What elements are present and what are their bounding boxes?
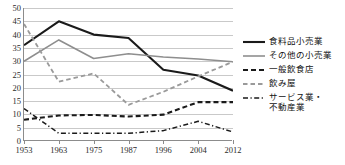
- chart-figure: 05101520253035404550 1953196319751987199…: [0, 0, 345, 165]
- legend-item[interactable]: 食料品小売業: [243, 36, 345, 48]
- x-axis-tick-label: 1953: [16, 146, 33, 155]
- x-axis-tick-label: 2012: [225, 146, 242, 155]
- solid-gray-line-icon: [243, 50, 265, 62]
- y-axis-tick-label: 30: [13, 57, 22, 66]
- x-axis-tick-mark: [233, 140, 234, 144]
- legend-item-label: 飲み屋: [269, 78, 296, 88]
- y-axis-tick-label: 20: [13, 84, 22, 93]
- y-axis-tick-label: 0: [17, 137, 21, 146]
- plot-area: 05101520253035404550 1953196319751987199…: [23, 8, 232, 141]
- dashed-black-line-icon: [243, 64, 265, 76]
- series-lines: [24, 8, 233, 141]
- x-axis-tick-label: 1987: [120, 146, 137, 155]
- legend-item-label: 食料品小売業: [269, 36, 323, 46]
- y-axis-tick-label: 10: [13, 110, 22, 119]
- x-axis-tick-label: 1975: [85, 146, 102, 155]
- y-axis-tick-label: 15: [13, 97, 22, 106]
- x-axis-tick-label: 1963: [50, 146, 67, 155]
- solid-black-line-icon: [243, 36, 265, 48]
- legend-item-label: 一般飲食店: [269, 64, 314, 74]
- series-line: [24, 109, 233, 134]
- chart-legend: 食料品小売業その他の小売業一般飲食店飲み屋サービス業・ 不動産業: [243, 36, 345, 114]
- legend-item[interactable]: 飲み屋: [243, 78, 345, 90]
- legend-item[interactable]: サービス業・ 不動産業: [243, 92, 345, 112]
- legend-item[interactable]: 一般飲食店: [243, 64, 345, 76]
- y-axis-tick-label: 40: [13, 30, 22, 39]
- dashdot-black-line-icon: [243, 92, 265, 104]
- y-axis-tick-label: 45: [13, 17, 22, 26]
- legend-item-label: サービス業・ 不動産業: [269, 92, 323, 112]
- series-line: [24, 24, 233, 105]
- legend-item-label: その他の小売業: [269, 50, 332, 60]
- dashed-gray-line-icon: [243, 78, 265, 90]
- x-axis-tick-label: 2004: [190, 146, 207, 155]
- series-line: [24, 40, 233, 62]
- y-axis-tick-label: 5: [17, 123, 21, 132]
- series-line: [24, 21, 233, 90]
- y-axis-tick-label: 50: [13, 4, 22, 13]
- x-axis-tick-label: 1996: [155, 146, 172, 155]
- legend-item[interactable]: その他の小売業: [243, 50, 345, 62]
- y-axis-tick-label: 35: [13, 44, 22, 53]
- y-axis-tick-label: 25: [13, 70, 22, 79]
